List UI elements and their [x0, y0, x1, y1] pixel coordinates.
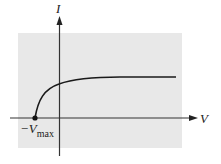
- vmax-label-subscript: max: [37, 128, 54, 139]
- y-axis-arrow-icon: [57, 16, 63, 25]
- x-axis-arrow-icon: [189, 115, 198, 121]
- x-axis-label: V: [200, 112, 208, 125]
- vmax-label-main: −V: [20, 121, 37, 136]
- vmax-label: −Vmax: [20, 122, 54, 135]
- iv-diagram: [0, 0, 221, 164]
- vmax-point: [32, 115, 37, 120]
- y-axis-label: I: [56, 2, 60, 15]
